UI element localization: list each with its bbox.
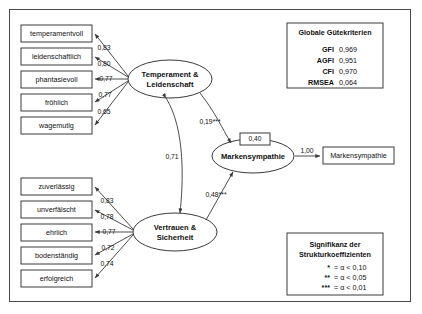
indicator-box-froehlich: fröhlich [21, 94, 92, 111]
loading-arrow-erfolgreich [95, 235, 133, 278]
structural-coefficient: 0,19*** [199, 118, 221, 125]
loading-arrow-temperamentvoll [95, 34, 128, 76]
significance-title-line2: Strukturkoeffizienten [299, 250, 371, 259]
indicator-label: wagemutig [38, 121, 74, 130]
sem-path-diagram-page: temperamentvoll leidenschaftlich phantas… [0, 0, 422, 314]
indicator-label: leidenschaftlich [32, 52, 81, 61]
r-squared-box: 0,40 [240, 133, 270, 145]
indicator-box-wagemutig: wagemutig [21, 117, 92, 134]
loading-value: 0,78 [100, 213, 113, 220]
indicator-box-temperamentvoll: temperamentvoll [21, 25, 92, 42]
fit-key: AGFI [317, 56, 334, 65]
indicator-box-erfolgreich: erfolgreich [21, 270, 92, 287]
indicator-label: bodenständig [35, 251, 78, 260]
bottom-indicator-group: zuverlässig unverfälscht ehrlich bodenst… [21, 178, 92, 287]
construct-label-line2: Leidenschaft [147, 80, 194, 89]
outcome-loading-value: 1,00 [300, 147, 313, 154]
fit-box-title: Globale Gütekriterien [298, 28, 371, 37]
significance-title-line1: Signifikanz der [309, 240, 360, 249]
sem-diagram-canvas: temperamentvoll leidenschaftlich phantas… [0, 0, 422, 314]
global-fit-criteria-box: Globale Gütekriterien GFI 0,969 AGFI 0,9… [287, 23, 383, 88]
indicator-label: unverfälscht [37, 205, 76, 214]
fit-key: GFI [322, 45, 334, 54]
loading-value: 0,74 [100, 260, 113, 267]
structural-coefficient: 0,48*** [205, 191, 227, 198]
construct-label-line1: Vertrauen & [154, 223, 197, 232]
significance-definition: = α < 0,10 [334, 263, 367, 272]
fit-key: CFI [322, 67, 334, 76]
indicator-label: zuverlässig [39, 182, 75, 191]
loading-arrow-zuverlaessig [95, 187, 133, 229]
indicator-box-ehrlich: ehrlich [21, 224, 92, 241]
structural-path-temperament-to-markensympathie: 0,19*** [199, 93, 231, 143]
construct-temperament-leidenschaft: Temperament & Leidenschaft [128, 60, 212, 98]
fit-value: 0,951 [339, 56, 357, 65]
loading-value: 0,77 [99, 75, 112, 82]
loading-value: 0,83 [100, 197, 113, 204]
indicator-box-zuverlaessig: zuverlässig [21, 178, 92, 195]
correlation-path-temperament-vertrauen: 0,71 [165, 98, 182, 213]
loading-value: 0,77 [102, 228, 115, 235]
indicator-box-leidenschaftlich: leidenschaftlich [21, 48, 92, 65]
indicator-label: ehrlich [46, 228, 67, 237]
structural-path-vertrauen-to-markensympathie: 0,48*** [205, 172, 233, 220]
r-squared-value: 0,40 [249, 135, 262, 142]
outcome-indicator-group: 1,00 Markensympathie [295, 147, 394, 164]
indicator-box-unverfaelscht: unverfälscht [21, 201, 92, 218]
fit-key: RMSEA [308, 78, 334, 87]
loading-value: 0,72 [101, 244, 114, 251]
construct-vertrauen-sicherheit: Vertrauen & Sicherheit [133, 213, 217, 251]
indicator-label: phantasievoll [36, 75, 78, 84]
indicator-label: temperamentvoll [30, 29, 84, 38]
loading-value: 0,83 [97, 44, 110, 51]
construct-label-line1: Markensympathie [221, 152, 285, 161]
correlation-value: 0,71 [165, 153, 178, 160]
fit-value: 0,970 [339, 67, 357, 76]
loading-arrow-wagemutig [95, 82, 128, 125]
significance-stars: ** [324, 273, 330, 282]
significance-definition: = α < 0,01 [334, 283, 367, 292]
loading-value: 0,77 [98, 91, 111, 98]
fit-value: 0,064 [339, 78, 357, 87]
indicator-box-phantasievoll: phantasievoll [21, 71, 92, 88]
significance-stars: * [327, 263, 330, 272]
loading-value: 0,80 [97, 60, 110, 67]
indicator-label: erfolgreich [40, 274, 74, 283]
significance-stars: *** [322, 283, 331, 292]
significance-definition: = α < 0,05 [334, 273, 367, 282]
top-indicator-group: temperamentvoll leidenschaftlich phantas… [21, 25, 92, 134]
indicator-box-bodenstaendig: bodenständig [21, 247, 92, 264]
indicator-label: fröhlich [45, 98, 68, 107]
construct-label-line2: Sicherheit [157, 233, 194, 242]
loading-value: 0,65 [97, 108, 110, 115]
construct-label-line1: Temperament & [142, 70, 199, 79]
significance-legend-box: Signifikanz der Strukturkoeffizienten * … [287, 233, 383, 295]
indicator-label: Markensympathie [330, 151, 387, 160]
fit-value: 0,969 [339, 45, 357, 54]
